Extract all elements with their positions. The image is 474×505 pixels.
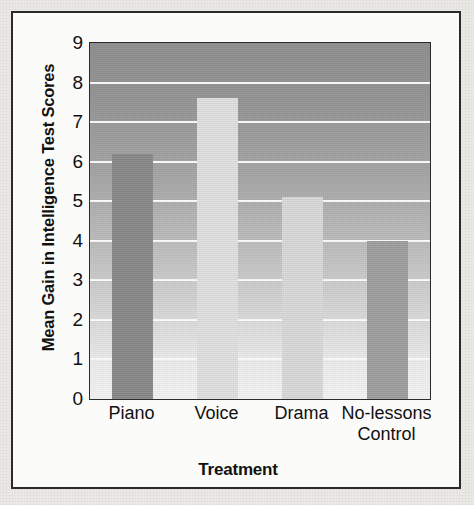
y-axis-tick-label: 7 <box>57 112 83 131</box>
bar <box>112 154 153 399</box>
x-axis-title: Treatment <box>13 460 463 480</box>
gridline <box>90 82 430 84</box>
bar <box>282 197 323 399</box>
y-axis-tick-label: 1 <box>57 349 83 368</box>
bar-texture <box>112 154 153 399</box>
y-axis-tick-label: 4 <box>57 230 83 249</box>
y-axis-tick-label: 8 <box>57 72 83 91</box>
x-axis-tick-labels: PianoVoiceDramaNo-lessonsControl <box>89 403 433 461</box>
x-axis-tick-label: No-lessonsControl <box>328 403 446 445</box>
bar <box>197 98 238 399</box>
gridline <box>90 121 430 123</box>
y-axis-tick-label: 9 <box>57 33 83 52</box>
figure-frame: Mean Gain in Intelligence Test Scores 98… <box>11 11 461 489</box>
bar-texture <box>197 98 238 399</box>
y-axis-title: Mean Gain in Intelligence Test Scores <box>39 23 58 393</box>
y-axis-tick-label: 5 <box>57 191 83 210</box>
bar <box>367 241 408 399</box>
bar-texture <box>282 197 323 399</box>
bar-texture <box>367 241 408 399</box>
y-axis-tick-labels: 9876543210 <box>57 42 83 398</box>
x-axis-tick-label-line: Control <box>328 424 446 445</box>
y-axis-tick-label: 6 <box>57 151 83 170</box>
y-axis-tick-label: 2 <box>57 309 83 328</box>
chart-page: Mean Gain in Intelligence Test Scores 98… <box>0 0 474 505</box>
y-axis-tick-label: 3 <box>57 270 83 289</box>
plot-area <box>89 42 431 400</box>
x-axis-tick-label-line: No-lessons <box>328 403 446 424</box>
